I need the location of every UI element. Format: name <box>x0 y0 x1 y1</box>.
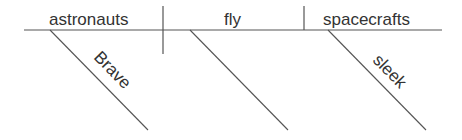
subject-word: astronauts <box>49 10 128 29</box>
object-modifier-word: sleek <box>369 51 411 93</box>
object-modifier-line <box>328 30 426 130</box>
object-word: spacecrafts <box>323 10 410 29</box>
verb-word: fly <box>224 10 242 29</box>
subject-modifier-word: Brave <box>90 48 135 93</box>
sentence-diagram: astronauts fly spacecrafts Brave sleek <box>0 0 462 140</box>
verb-modifier-line <box>190 30 288 130</box>
